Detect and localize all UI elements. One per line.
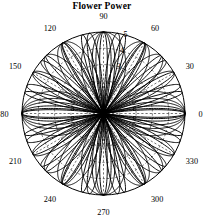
theta-tick-label-0: 0 [199,110,203,119]
theta-tick-label-180: 180 [0,110,9,119]
theta-tick-label-270: 270 [97,208,109,216]
theta-tick-label-30: 30 [186,62,194,71]
radial-tick-label-3: 3 [117,62,121,71]
theta-tick-label-300: 300 [151,195,163,204]
radial-tick-label-5: 5 [123,30,127,39]
rose-curves [22,32,185,195]
theta-tick-label-330: 330 [186,157,198,166]
rose-curve-rose-k12 [22,32,185,195]
polar-plot-canvas: 0306090120150180210240270300330345 [0,0,204,215]
theta-tick-label-120: 120 [44,24,56,33]
theta-tick-label-90: 90 [99,12,107,21]
theta-tick-label-150: 150 [9,62,21,71]
polar-chart-figure: Flower Power 030609012015018021024027030… [0,0,204,215]
theta-tick-label-60: 60 [151,24,159,33]
theta-tick-label-240: 240 [44,195,56,204]
theta-tick-label-210: 210 [9,157,21,166]
radial-tick-label-4: 4 [120,46,124,55]
